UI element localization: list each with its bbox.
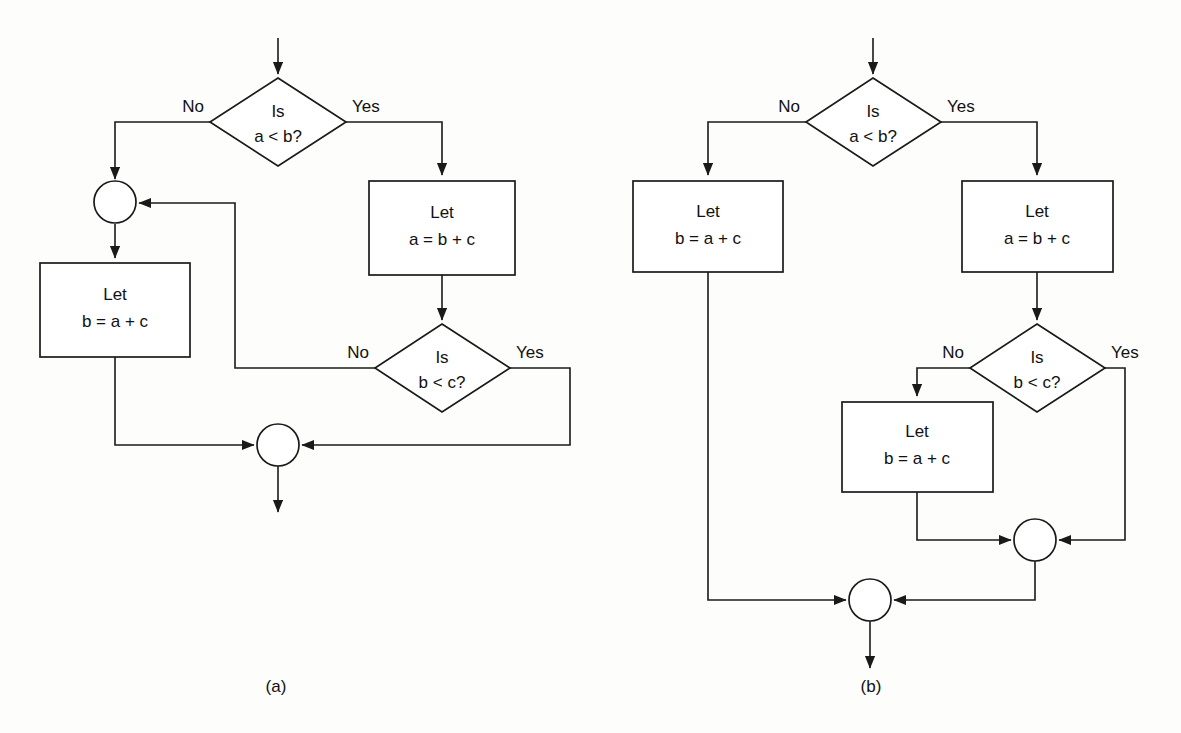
flowchart-diagram-pair: Is a < b? No Yes Let a = b + c Let b = a… bbox=[0, 0, 1181, 733]
decision-a-is-b-lt-c: Is b < c? bbox=[375, 324, 510, 412]
label-a-decision2-yes: Yes bbox=[516, 343, 544, 362]
edge-decision2-no-to-process-lower-b bbox=[917, 368, 970, 396]
decision-a-is-a-lt-b: Is a < b? bbox=[210, 78, 346, 166]
process-a-let-b-eq-a-plus-c: Let b = a + c bbox=[40, 263, 190, 357]
process-a-left-line1: Let bbox=[103, 285, 127, 304]
edge-merge-upper-to-merge-lower-b bbox=[894, 561, 1035, 600]
process-b-left-line2: b = a + c bbox=[675, 229, 742, 248]
diagram-b: Is a < b? No Yes Let b = a + c Let a = b… bbox=[633, 38, 1139, 696]
label-a-decision1-no: No bbox=[182, 97, 204, 116]
decision-b-is-b-lt-c: Is b < c? bbox=[970, 324, 1105, 412]
decision-a1-line1: Is bbox=[271, 102, 284, 121]
process-b-let-b-eq-a-plus-c-left: Let b = a + c bbox=[633, 181, 783, 272]
edge-decision1-yes-to-process-right-a bbox=[346, 122, 442, 175]
label-a-decision1-yes: Yes bbox=[352, 97, 380, 116]
decision-a1-line2: a < b? bbox=[254, 127, 302, 146]
merge-node-a-upper bbox=[94, 181, 136, 223]
decision-b1-line1: Is bbox=[866, 102, 879, 121]
caption-b: (b) bbox=[861, 677, 882, 696]
diagram-a: Is a < b? No Yes Let a = b + c Let b = a… bbox=[40, 38, 570, 696]
edge-process-left-to-merge-lower-b bbox=[708, 272, 846, 600]
process-a-right-line1: Let bbox=[430, 203, 454, 222]
process-b-lower-line1: Let bbox=[905, 422, 929, 441]
figure-canvas: Is a < b? No Yes Let a = b + c Let b = a… bbox=[0, 0, 1181, 733]
caption-a: (a) bbox=[266, 677, 287, 696]
edge-decision2-yes-to-merge-upper-b bbox=[1059, 368, 1125, 540]
label-b-decision2-yes: Yes bbox=[1111, 343, 1139, 362]
process-b-left-line1: Let bbox=[696, 202, 720, 221]
process-b-let-b-eq-a-plus-c-lower: Let b = a + c bbox=[842, 402, 993, 492]
process-b-right-line1: Let bbox=[1025, 202, 1049, 221]
process-a-left-line2: b = a + c bbox=[82, 312, 149, 331]
process-b-right-line2: a = b + c bbox=[1004, 229, 1071, 248]
decision-b-is-a-lt-b: Is a < b? bbox=[806, 78, 941, 166]
process-a-right-line2: a = b + c bbox=[409, 230, 476, 249]
decision-a2-line2: b < c? bbox=[419, 373, 466, 392]
edge-decision1-no-to-merge1-a bbox=[115, 122, 210, 179]
process-b-lower-line2: b = a + c bbox=[884, 449, 951, 468]
merge-node-a-lower bbox=[257, 424, 299, 466]
label-b-decision2-no: No bbox=[942, 343, 964, 362]
decision-b2-line1: Is bbox=[1030, 348, 1043, 367]
process-b-let-a-eq-b-plus-c: Let a = b + c bbox=[962, 181, 1113, 272]
decision-b1-line2: a < b? bbox=[849, 127, 897, 146]
edge-decision1-no-to-process-left-b bbox=[708, 122, 806, 175]
decision-a2-line1: Is bbox=[435, 348, 448, 367]
label-a-decision2-no: No bbox=[347, 343, 369, 362]
edge-process-lower-to-merge-upper-b bbox=[917, 492, 1011, 540]
edge-decision1-yes-to-process-right-b bbox=[941, 122, 1037, 175]
merge-node-b-upper bbox=[1014, 519, 1056, 561]
merge-node-b-lower bbox=[849, 579, 891, 621]
edge-process-left-to-merge2-a bbox=[115, 357, 254, 445]
label-b-decision1-yes: Yes bbox=[947, 97, 975, 116]
label-b-decision1-no: No bbox=[778, 97, 800, 116]
process-a-let-a-eq-b-plus-c: Let a = b + c bbox=[369, 181, 515, 275]
decision-b2-line2: b < c? bbox=[1014, 373, 1061, 392]
